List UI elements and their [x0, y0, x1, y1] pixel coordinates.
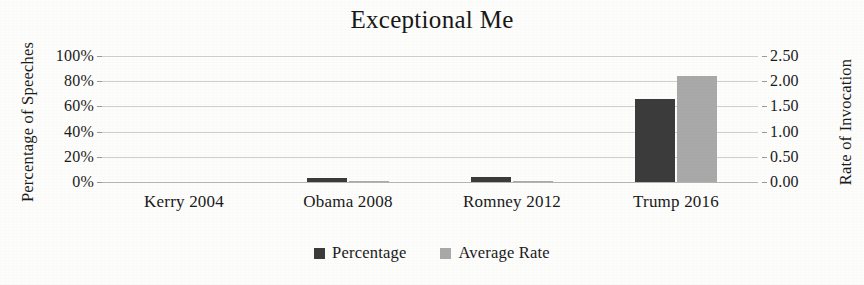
- legend-item-0[interactable]: Percentage: [314, 243, 406, 263]
- x-axis-label-1: Obama 2008: [266, 192, 430, 212]
- y-right-tick-mark-5: [762, 56, 767, 57]
- y-right-tick-mark-1: [762, 157, 767, 158]
- y-left-tick-label-1: 20%: [64, 149, 94, 165]
- chart-legend: PercentageAverage Rate: [0, 243, 864, 263]
- y-right-tick-mark-3: [762, 106, 767, 107]
- chart-title: Exceptional Me: [0, 6, 864, 34]
- x-axis-categories: Kerry 2004Obama 2008Romney 2012Trump 201…: [102, 192, 758, 220]
- y-right-tick-mark-4: [762, 81, 767, 82]
- bar-3-0[interactable]: [635, 99, 675, 182]
- y-left-tick-label-3: 60%: [64, 98, 94, 114]
- y-right-tick-mark-2: [762, 132, 767, 133]
- chart-figure: Exceptional Me Percentage of Speeches Ra…: [0, 0, 864, 285]
- y-right-tick-label-4: 2.00: [770, 73, 799, 89]
- percentage-swatch: [314, 248, 325, 259]
- x-axis-label-0: Kerry 2004: [102, 192, 266, 212]
- y-right-tick-label-2: 1.00: [770, 124, 799, 140]
- plot-area: [102, 56, 758, 182]
- y-left-tick-label-5: 100%: [56, 48, 94, 64]
- y-right-tick-label-1: 0.50: [770, 149, 799, 165]
- bar-1-0[interactable]: [307, 178, 347, 182]
- bar-1-1[interactable]: [349, 181, 389, 182]
- x-axis-label-2: Romney 2012: [430, 192, 594, 212]
- bar-group-1: [266, 56, 430, 182]
- y-axis-right-title: Rate of Invocation: [836, 32, 856, 212]
- bar-group-3: [594, 56, 758, 182]
- y-right-tick-mark-0: [762, 182, 767, 183]
- legend-label-1: Average Rate: [458, 243, 549, 263]
- axis-baseline: [102, 182, 758, 183]
- legend-label-0: Percentage: [332, 243, 406, 263]
- bar-2-0[interactable]: [471, 177, 511, 182]
- y-right-tick-label-5: 2.50: [770, 48, 799, 64]
- bar-3-1[interactable]: [677, 76, 717, 182]
- bar-group-0: [102, 56, 266, 182]
- average-rate-swatch: [440, 248, 451, 259]
- y-right-tick-label-0: 0.00: [770, 174, 799, 190]
- y-axis-left-title: Percentage of Speeches: [18, 32, 38, 212]
- y-right-tick-label-3: 1.50: [770, 98, 799, 114]
- x-axis-label-3: Trump 2016: [594, 192, 758, 212]
- y-left-tick-label-4: 80%: [64, 73, 94, 89]
- bar-2-1[interactable]: [513, 181, 553, 183]
- y-left-tick-label-2: 40%: [64, 124, 94, 140]
- bar-group-2: [430, 56, 594, 182]
- y-left-tick-label-0: 0%: [72, 174, 94, 190]
- legend-item-1[interactable]: Average Rate: [440, 243, 549, 263]
